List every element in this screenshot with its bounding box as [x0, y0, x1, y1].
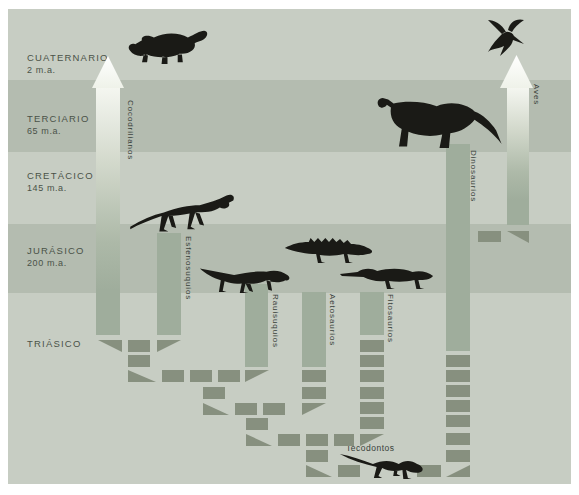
- group-label-fitosaurios: Fitosaurios: [386, 294, 395, 343]
- relation-dash: [334, 434, 354, 446]
- era-age: 2 m.a.: [27, 65, 109, 75]
- sauropod-illustration: [372, 90, 507, 152]
- relation-dash: [360, 340, 384, 352]
- group-label-dinosaurios: Dinosaurios: [469, 150, 478, 202]
- evolution-diagram: Extensión del grupo en el tiempo Posible…: [0, 0, 579, 495]
- era-name: CUATERNARIO: [27, 52, 109, 63]
- relation-dash: [446, 355, 470, 367]
- group-label-cocodrilianos: Cocodrilianos: [126, 100, 135, 160]
- hummingbird-illustration: [486, 18, 526, 62]
- tecodont-illustration: [338, 446, 430, 482]
- era-age: 145 m.a.: [27, 183, 94, 193]
- relation-dash: [360, 355, 384, 367]
- relation-dash: [446, 385, 470, 397]
- relation-dash: [278, 434, 300, 446]
- relation-dash: [478, 231, 501, 242]
- relation-dash: [218, 370, 240, 382]
- extension-bar-fitosaurios: [360, 292, 384, 335]
- phytosaur-illustration: [338, 262, 436, 292]
- era-age: 200 m.a.: [27, 258, 85, 268]
- era-name: TERCIARIO: [27, 113, 90, 124]
- sphenosuchian-illustration: [128, 186, 240, 234]
- relation-dash: [360, 417, 384, 429]
- era-label-terciario: TERCIARIO65 m.a.: [27, 113, 90, 136]
- group-label-rauisuquios: Rauisuquios: [271, 294, 280, 348]
- relation-dash: [235, 403, 257, 415]
- relation-dash: [360, 402, 384, 414]
- era-name: TRIÁSICO: [27, 338, 81, 349]
- group-label-aetosaurios: Aetosaurios: [328, 294, 337, 346]
- extension-bar-dinosaurios: [446, 144, 470, 351]
- group-label-esfenosuquios: Esfenosuquios: [184, 236, 193, 300]
- diagram-board: Extensión del grupo en el tiempo Posible…: [8, 9, 571, 484]
- relation-dash: [246, 418, 268, 430]
- relation-dash: [302, 387, 326, 399]
- era-band-triasico: [8, 293, 571, 484]
- relation-dash: [360, 387, 384, 399]
- relation-dash: [446, 450, 470, 462]
- extension-bar-aves: [507, 88, 529, 225]
- relation-dash: [446, 415, 470, 427]
- era-label-jurasico: JURÁSICO200 m.a.: [27, 245, 85, 268]
- relation-dash: [263, 403, 285, 415]
- relation-dash: [302, 370, 326, 382]
- relation-dash: [446, 370, 470, 382]
- group-label-aves: Aves: [532, 84, 541, 105]
- extension-bar-cocodrilianos: [96, 88, 120, 335]
- era-label-cretacico: CRETÁCICO145 m.a.: [27, 170, 94, 193]
- era-label-triasico: TRIÁSICO: [27, 338, 81, 349]
- relation-dash: [128, 355, 150, 367]
- relation-dash: [446, 400, 470, 412]
- rauisuchian-illustration: [198, 258, 293, 294]
- era-name: JURÁSICO: [27, 245, 85, 256]
- extension-bar-aetosaurios: [302, 292, 326, 367]
- extension-bar-rauisuquios: [245, 284, 268, 367]
- era-label-cuaternario: CUATERNARIO2 m.a.: [27, 52, 109, 75]
- relation-dash: [306, 450, 328, 462]
- relation-dash: [306, 434, 328, 446]
- relation-dash: [203, 387, 225, 399]
- crocodile-illustration: [125, 28, 210, 66]
- era-name: CRETÁCICO: [27, 170, 94, 181]
- relation-dash: [128, 340, 150, 352]
- relation-dash: [446, 433, 470, 445]
- relation-dash: [162, 370, 184, 382]
- relation-dash: [190, 370, 212, 382]
- era-age: 65 m.a.: [27, 126, 90, 136]
- extension-bar-esfenosuquios: [157, 233, 181, 335]
- relation-dash: [360, 370, 384, 382]
